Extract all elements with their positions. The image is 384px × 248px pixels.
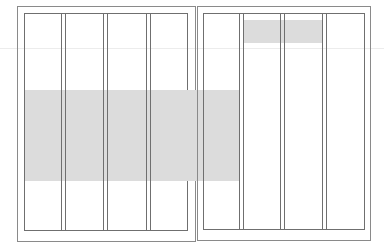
right-gutter-3	[322, 13, 327, 230]
right-gutter-2	[280, 13, 285, 230]
left-gutter-3	[146, 13, 151, 231]
left-gutter-2	[103, 13, 108, 231]
left-gutter-1	[61, 13, 66, 231]
right-gutter-1	[239, 13, 244, 230]
